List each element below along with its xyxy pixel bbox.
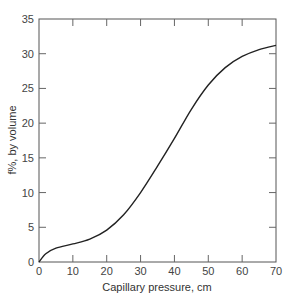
x-axis-label: Capillary pressure, cm bbox=[102, 281, 211, 293]
x-tick-label: 50 bbox=[202, 265, 214, 277]
y-tick-label: 15 bbox=[22, 152, 34, 164]
y-axis-ticks bbox=[39, 54, 276, 228]
y-tick-label: 5 bbox=[28, 221, 34, 233]
chart-figure: 010203040506070 05101520253035 Capillary… bbox=[0, 0, 295, 300]
y-tick-label: 30 bbox=[22, 48, 34, 60]
y-tick-label: 25 bbox=[22, 82, 34, 94]
y-tick-label: 20 bbox=[22, 117, 34, 129]
plot-frame bbox=[39, 19, 276, 262]
y-axis-label: f%, by volume bbox=[6, 105, 18, 174]
x-tick-label: 70 bbox=[270, 265, 282, 277]
y-tick-label: 10 bbox=[22, 187, 34, 199]
y-axis-tick-labels: 05101520253035 bbox=[22, 13, 34, 268]
x-tick-label: 10 bbox=[67, 265, 79, 277]
y-tick-label: 0 bbox=[28, 256, 34, 268]
x-tick-label: 20 bbox=[101, 265, 113, 277]
data-curve bbox=[39, 45, 276, 262]
x-axis-tick-labels: 010203040506070 bbox=[36, 265, 282, 277]
x-axis-ticks bbox=[73, 19, 242, 262]
y-tick-label: 35 bbox=[22, 13, 34, 25]
x-tick-label: 60 bbox=[236, 265, 248, 277]
x-tick-label: 30 bbox=[134, 265, 146, 277]
x-tick-label: 40 bbox=[168, 265, 180, 277]
x-tick-label: 0 bbox=[36, 265, 42, 277]
